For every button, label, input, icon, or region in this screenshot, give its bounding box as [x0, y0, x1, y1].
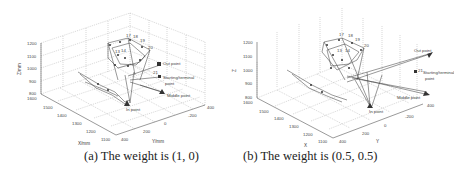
svg-text:1600: 1600 [243, 100, 253, 105]
z-axis-ticks: 1200 1100 1000 900 800 [243, 40, 253, 100]
svg-text:1100: 1100 [243, 54, 253, 59]
node-labels: 17 18 19 20 21 13 14 [337, 32, 423, 73]
svg-text:-200: -200 [188, 113, 197, 118]
plot-3d-a: 1200 1100 1000 900 800 Z/mm 1600 1500 14… [0, 0, 227, 150]
x-axis-label: X/mm [78, 141, 90, 146]
svg-text:14: 14 [345, 48, 350, 53]
svg-text:point: point [165, 81, 175, 86]
y-axis-label: Y/mm [152, 139, 164, 144]
svg-text:18: 18 [348, 33, 353, 38]
svg-text:1300: 1300 [289, 124, 299, 129]
svg-text:1200: 1200 [303, 132, 313, 137]
svg-text:0: 0 [164, 121, 167, 126]
svg-text:17: 17 [126, 33, 131, 38]
z-axis-label: Z/mm [17, 63, 22, 75]
svg-text:200: 200 [143, 129, 151, 134]
svg-text:-200: -200 [405, 114, 414, 119]
svg-text:20: 20 [364, 43, 369, 48]
caption-b: (b) The weight is (0.5, 0.5) [243, 149, 377, 164]
y-axis-ticks: 400 200 0 -200 400 [339, 103, 435, 144]
svg-text:Starting/terminal: Starting/terminal [163, 75, 194, 80]
subfigure-b: 1200 1100 1000 900 800 Z 1600 1500 1400 … [227, 0, 454, 150]
svg-text:1100: 1100 [27, 54, 37, 59]
svg-text:Out point: Out point [414, 48, 432, 53]
svg-text:200: 200 [362, 131, 370, 136]
svg-text:1200: 1200 [243, 40, 253, 45]
svg-text:13: 13 [337, 48, 342, 53]
axes [41, 43, 205, 135]
svg-text:400: 400 [427, 103, 435, 108]
svg-text:400: 400 [339, 139, 347, 144]
svg-text:Starting/terminal: Starting/terminal [423, 70, 454, 75]
x-axis-label: X [304, 143, 307, 148]
svg-text:1100: 1100 [101, 137, 111, 142]
svg-text:In point: In point [369, 109, 384, 114]
svg-text:1000: 1000 [27, 66, 37, 71]
svg-text:1300: 1300 [72, 121, 82, 126]
caption-a: (a) The weight is (1, 0) [84, 149, 199, 164]
x-axis-ticks: 1600 1500 1400 1300 1200 1100 [243, 100, 328, 144]
svg-text:1400: 1400 [274, 116, 284, 121]
svg-text:20: 20 [148, 45, 153, 50]
svg-text:1000: 1000 [243, 68, 253, 73]
svg-text:1500: 1500 [43, 105, 53, 110]
svg-text:400: 400 [207, 105, 215, 110]
svg-text:18: 18 [133, 34, 138, 39]
svg-text:19: 19 [140, 38, 145, 43]
svg-text:14: 14 [121, 48, 126, 53]
svg-text:900: 900 [245, 81, 253, 86]
svg-text:900: 900 [29, 79, 37, 84]
svg-text:point: point [425, 76, 435, 81]
svg-text:1100: 1100 [318, 139, 328, 144]
y-axis-label: Y [376, 139, 379, 144]
svg-text:Middle point: Middle point [397, 95, 421, 100]
x-axis-ticks: 1600 1500 1400 1300 1200 1100 [27, 96, 111, 142]
svg-text:1600: 1600 [27, 96, 37, 101]
svg-text:1400: 1400 [57, 113, 67, 118]
svg-text:1200: 1200 [27, 41, 37, 46]
subfigure-a: 1200 1100 1000 900 800 Z/mm 1600 1500 14… [0, 0, 227, 150]
svg-text:1500: 1500 [259, 109, 269, 114]
grid-lines [41, 13, 205, 129]
axes [257, 42, 423, 138]
svg-text:19: 19 [355, 37, 360, 42]
svg-text:1200: 1200 [86, 129, 96, 134]
point-labels: Out point Starting/terminal point Middle… [369, 48, 454, 114]
svg-text:21: 21 [153, 70, 158, 75]
svg-text:0: 0 [384, 123, 387, 128]
svg-text:In point: In point [126, 107, 141, 112]
svg-text:17: 17 [339, 32, 344, 37]
plot-3d-b: 1200 1100 1000 900 800 Z 1600 1500 1400 … [227, 0, 454, 150]
svg-text:400: 400 [121, 137, 129, 142]
svg-text:Middle point: Middle point [167, 93, 191, 98]
svg-text:Out point: Out point [163, 61, 181, 66]
z-axis-label: Z [232, 69, 237, 72]
z-axis-ticks: 1200 1100 1000 900 800 [27, 41, 37, 96]
svg-text:13: 13 [115, 49, 120, 54]
